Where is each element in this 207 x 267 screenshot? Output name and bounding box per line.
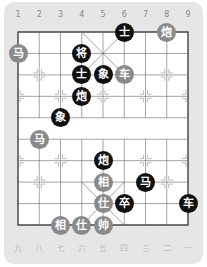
piece-black-马[interactable]: 马 <box>136 173 155 192</box>
piece-black-象[interactable]: 象 <box>94 65 113 84</box>
piece-red-车[interactable]: 车 <box>115 65 134 84</box>
piece-red-马[interactable]: 马 <box>9 44 28 63</box>
piece-red-马[interactable]: 马 <box>30 130 49 149</box>
piece-red-相[interactable]: 相 <box>51 216 70 235</box>
piece-black-车[interactable]: 车 <box>179 194 198 213</box>
piece-black-炮[interactable]: 炮 <box>94 151 113 170</box>
piece-red-仕[interactable]: 仕 <box>94 194 113 213</box>
piece-red-炮[interactable]: 炮 <box>157 23 176 42</box>
piece-black-卒[interactable]: 卒 <box>115 194 134 213</box>
piece-black-炮[interactable]: 炮 <box>72 87 91 106</box>
piece-red-帅[interactable]: 帅 <box>94 216 113 235</box>
piece-red-相[interactable]: 相 <box>94 173 113 192</box>
piece-black-士[interactable]: 士 <box>115 23 134 42</box>
piece-red-仕[interactable]: 仕 <box>72 216 91 235</box>
